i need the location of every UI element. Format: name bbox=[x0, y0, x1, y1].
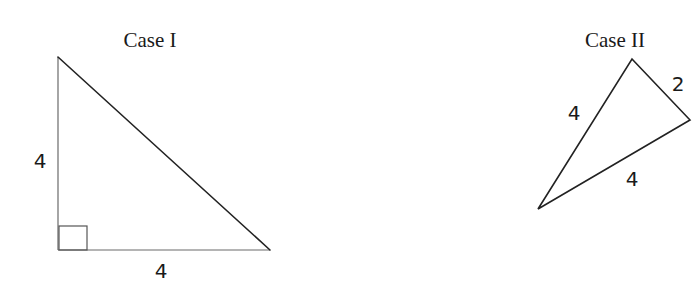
two-triangle-cases-diagram: Case I 4 4 Case II 4 2 4 bbox=[0, 0, 699, 289]
case-1-figure: Case I 4 4 bbox=[34, 28, 270, 283]
case-1-bottom-side-label: 4 bbox=[155, 259, 168, 283]
right-angle-marker-icon bbox=[59, 226, 87, 250]
case-1-hypotenuse bbox=[58, 57, 270, 250]
case-1-left-side-label: 4 bbox=[34, 149, 47, 173]
case-2-title: Case II bbox=[585, 28, 645, 52]
case-2-upper-right-side-label: 2 bbox=[672, 72, 685, 96]
case-1-title: Case I bbox=[123, 28, 176, 52]
case-2-triangle bbox=[538, 59, 690, 209]
case-2-lower-side-label: 4 bbox=[626, 167, 639, 191]
case-2-upper-left-side-label: 4 bbox=[568, 101, 581, 125]
case-2-figure: Case II 4 2 4 bbox=[538, 28, 690, 209]
